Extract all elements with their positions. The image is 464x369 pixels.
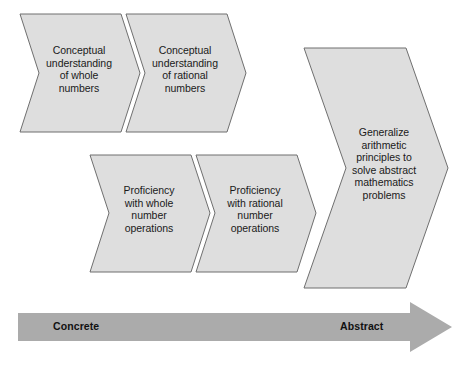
axis-label-abstract: Abstract bbox=[340, 320, 383, 332]
chevron-label-conceptual-rational: Conceptual understanding of rational num… bbox=[132, 44, 238, 94]
chevron-label-conceptual-whole: Conceptual understanding of whole number… bbox=[26, 44, 132, 94]
chevron-label-proficiency-rational: Proficiency with rational number operati… bbox=[202, 184, 308, 234]
axis-label-concrete: Concrete bbox=[53, 320, 99, 332]
chevron-progression-diagram: Conceptual understanding of whole number… bbox=[0, 0, 464, 369]
chevron-label-proficiency-whole: Proficiency with whole number operations bbox=[96, 184, 202, 234]
chevron-label-generalize-outcome: Generalize arithmetic principles to solv… bbox=[330, 126, 438, 202]
